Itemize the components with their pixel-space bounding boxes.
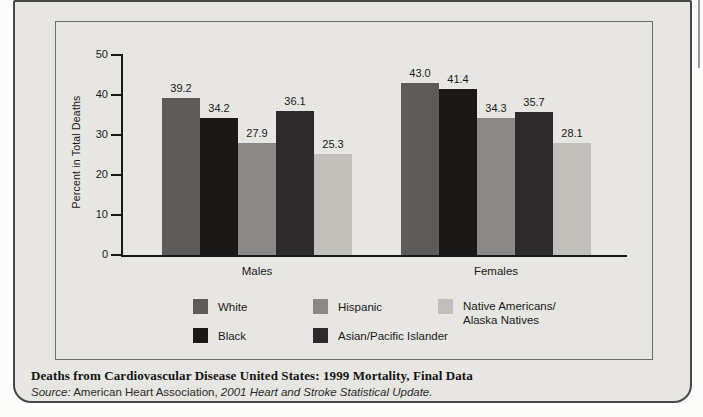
figure-page: Percent in Total Deaths 01020304050 39.2… xyxy=(0,0,703,417)
y-tick-mark-20 xyxy=(111,174,121,176)
source-label: Source: xyxy=(31,386,71,398)
bar-males-hispanic xyxy=(238,143,276,255)
legend-label-line: Black xyxy=(218,329,246,343)
legend-swatch-white xyxy=(193,299,208,314)
bar-value-label-males-black: 34.2 xyxy=(194,102,244,114)
bar-males-asian-pacific-islander xyxy=(276,111,314,255)
legend-label-line: White xyxy=(218,300,247,314)
bar-females-hispanic xyxy=(477,118,515,255)
legend-label-line: Hispanic xyxy=(338,300,382,314)
category-label-females: Females xyxy=(436,265,556,277)
bar-value-label-females-black: 41.4 xyxy=(433,73,483,85)
category-label-males: Males xyxy=(197,265,317,277)
legend-label-black: Black xyxy=(218,329,246,343)
bar-value-label-males-native-americans-alaska-natives: 25.3 xyxy=(308,138,358,150)
bar-females-white xyxy=(401,83,439,255)
bar-value-label-males-asian-pacific-islander: 36.1 xyxy=(270,95,320,107)
legend-swatch-hispanic xyxy=(313,299,328,314)
legend-label-hispanic: Hispanic xyxy=(338,300,382,314)
bar-males-native-americans-alaska-natives xyxy=(314,154,352,255)
y-tick-label-30: 30 xyxy=(78,128,108,140)
y-tick-label-20: 20 xyxy=(78,168,108,180)
y-axis-title: Percent in Total Deaths xyxy=(70,82,84,222)
y-tick-mark-0 xyxy=(111,254,121,256)
figure-source: Source: American Heart Association, 2001… xyxy=(31,386,432,398)
bar-value-label-males-white: 39.2 xyxy=(156,82,206,94)
bar-males-white xyxy=(162,98,200,255)
source-organization: American Heart Association, xyxy=(73,386,217,398)
legend-label-white: White xyxy=(218,300,247,314)
bar-females-native-americans-alaska-natives xyxy=(553,143,591,255)
x-axis-line xyxy=(121,255,627,257)
y-tick-mark-30 xyxy=(111,134,121,136)
y-tick-label-40: 40 xyxy=(78,88,108,100)
legend-label-native-americans-alaska-natives: Native Americans/Alaska Natives xyxy=(463,299,556,327)
bar-value-label-females-asian-pacific-islander: 35.7 xyxy=(509,96,559,108)
scan-edge-mark xyxy=(698,0,700,68)
bar-value-label-females-native-americans-alaska-natives: 28.1 xyxy=(547,127,597,139)
y-tick-mark-40 xyxy=(111,94,121,96)
legend-label-line: Alaska Natives xyxy=(463,313,556,327)
source-publication: 2001 Heart and Stroke Statistical Update… xyxy=(221,386,433,398)
legend-label-asian-pacific-islander: Asian/Pacific Islander xyxy=(338,329,448,343)
y-tick-label-50: 50 xyxy=(78,48,108,60)
y-tick-label-0: 0 xyxy=(78,248,108,260)
legend-swatch-native-americans-alaska-natives xyxy=(438,299,453,314)
legend-swatch-black xyxy=(193,328,208,343)
y-tick-mark-10 xyxy=(111,214,121,216)
figure-caption-title: Deaths from Cardiovascular Disease Unite… xyxy=(31,368,473,384)
y-axis-line xyxy=(121,54,123,257)
legend-label-line: Native Americans/ xyxy=(463,299,556,313)
y-tick-label-10: 10 xyxy=(78,208,108,220)
legend-swatch-asian-pacific-islander xyxy=(313,328,328,343)
bar-value-label-males-hispanic: 27.9 xyxy=(232,127,282,139)
legend-label-line: Asian/Pacific Islander xyxy=(338,329,448,343)
y-tick-mark-50 xyxy=(111,54,121,56)
